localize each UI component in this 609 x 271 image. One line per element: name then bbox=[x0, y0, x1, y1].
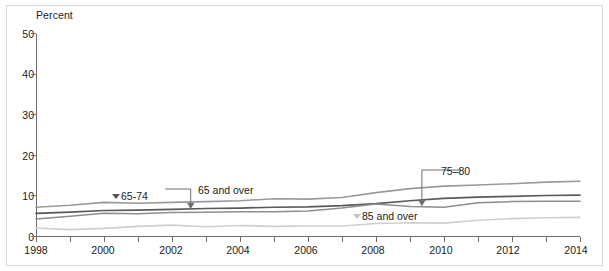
leader-line-65-and-over bbox=[165, 189, 191, 203]
annotation-label-85-and-over: 85 and over bbox=[353, 210, 417, 222]
annotation-text-65-and-over: 65 and over bbox=[198, 184, 253, 196]
data-series-group bbox=[36, 181, 580, 229]
x-axis-ticks bbox=[36, 237, 580, 242]
series-line bbox=[36, 217, 580, 229]
triangle-down-light-icon bbox=[353, 214, 361, 219]
chart-page: Percent 50 40 30 20 10 0 1998 2000 2002 … bbox=[0, 0, 609, 271]
annotation-text-85-and-over: 85 and over bbox=[362, 210, 417, 222]
annotation-label-65-and-over: 65 and over bbox=[198, 184, 253, 196]
y-axis-ticks bbox=[31, 34, 36, 237]
triangle-down-icon bbox=[112, 194, 120, 199]
annotation-text-75-80: 75–80 bbox=[441, 165, 470, 177]
annotation-label-65-74: 65-74 bbox=[112, 190, 148, 202]
annotation-label-75-80: 75–80 bbox=[441, 165, 470, 177]
annotation-text-65-74: 65-74 bbox=[121, 190, 148, 202]
arrow-head-75-80 bbox=[418, 200, 425, 206]
chart-plot-area bbox=[0, 0, 609, 271]
